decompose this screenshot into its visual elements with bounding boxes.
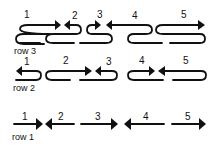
row1-num-2: 2 xyxy=(58,111,64,122)
row3-num-5: 5 xyxy=(181,9,187,20)
row-1: 1 2 3 4 5 row 1 xyxy=(12,111,206,142)
row2-num-3: 3 xyxy=(106,56,112,67)
row1-num-5: 5 xyxy=(185,111,191,122)
row2-seg2-path xyxy=(46,71,86,80)
row3-num-4: 4 xyxy=(132,10,138,21)
row-3: 1 2 3 4 5 row 3 xyxy=(14,9,205,56)
row2-num-4: 4 xyxy=(139,55,145,66)
row2-num-5: 5 xyxy=(183,55,189,66)
row-2: 1 2 3 4 5 row 2 xyxy=(13,55,206,93)
row1-seg3-arrowhead-right-icon xyxy=(111,118,118,130)
row3-seg1-arrowhead-right-icon xyxy=(55,20,61,30)
row1-num-3: 3 xyxy=(95,111,101,122)
row3-num-1: 1 xyxy=(24,9,30,20)
row3-label: row 3 xyxy=(14,46,36,56)
fold-diagram: 1 2 3 4 5 row 3 1 2 3 4 5 row 2 xyxy=(0,0,217,146)
row2-num-1: 1 xyxy=(24,56,30,67)
row1-label: row 1 xyxy=(12,132,34,142)
row1-num-4: 4 xyxy=(143,111,149,122)
row3-seg5-arrowhead-right-icon xyxy=(198,20,205,30)
row1-num-1: 1 xyxy=(22,111,28,122)
row2-seg5-path xyxy=(164,71,206,80)
row1-seg1-arrowhead-right-icon xyxy=(36,118,43,130)
row2-seg4-path xyxy=(128,71,163,80)
row2-seg4-arrowhead-right-icon xyxy=(149,66,155,76)
row1-seg5-arrowhead-right-icon xyxy=(199,118,206,130)
row3-seg3-arrowhead-right-icon xyxy=(95,20,101,30)
row2-num-2: 2 xyxy=(63,55,69,66)
row3-seg4-path xyxy=(111,25,162,43)
row2-seg2-arrowhead-right-icon xyxy=(85,66,92,76)
row3-seg2-path xyxy=(46,25,81,43)
row2-label: row 2 xyxy=(13,83,35,93)
row3-num-3: 3 xyxy=(97,9,103,20)
row3-num-2: 2 xyxy=(72,10,78,21)
row3-seg5-path xyxy=(156,25,205,43)
